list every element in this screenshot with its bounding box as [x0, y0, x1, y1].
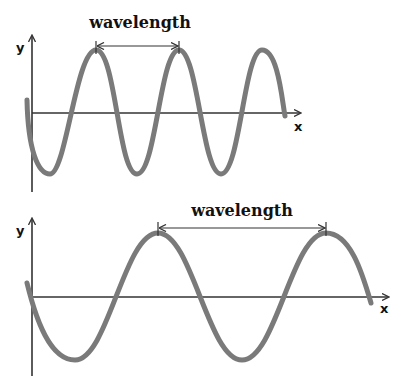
- x-axis-label: x: [380, 301, 389, 316]
- x-axis-label: x: [294, 119, 303, 134]
- wavelength-diagram: wavelength y x wavelength y x: [0, 0, 398, 389]
- y-axis-label: y: [16, 223, 25, 238]
- y-axis-label: y: [16, 40, 25, 55]
- panel-short-wave: wavelength y x: [16, 13, 303, 192]
- panel-long-wave: wavelength y x: [16, 201, 389, 376]
- short-wave-curve: [27, 50, 285, 174]
- wavelength-label: wavelength: [190, 201, 293, 220]
- wavelength-label: wavelength: [88, 13, 191, 32]
